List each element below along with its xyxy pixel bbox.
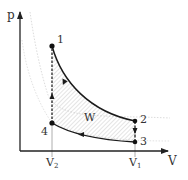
- tick-label-v1: V1: [129, 157, 141, 170]
- pv-diagram-canvas: [0, 0, 188, 180]
- state-point-2: [133, 119, 138, 124]
- x-axis-label: V: [168, 155, 177, 167]
- point-label-3: 3: [140, 136, 147, 147]
- point-label-4: 4: [41, 126, 48, 137]
- pv-diagram: p V 1 2 3 4 W V2 V1: [0, 0, 188, 180]
- y-axis-label: p: [7, 9, 15, 21]
- state-point-1: [49, 43, 54, 48]
- point-label-1: 1: [57, 34, 64, 45]
- tick-label-v1-base: V: [129, 156, 137, 169]
- tick-label-v2-base: V: [46, 156, 54, 169]
- faint-adiabat-upper: [30, 12, 170, 118]
- work-area: [52, 46, 135, 142]
- point-label-2: 2: [140, 114, 147, 125]
- tick-label-v2-sub: 2: [54, 162, 58, 170]
- tick-label-v1-sub: 1: [137, 162, 141, 170]
- state-point-3: [133, 140, 138, 145]
- tick-label-v2: V2: [46, 157, 58, 170]
- work-label: W: [84, 112, 95, 123]
- state-point-4: [49, 120, 54, 125]
